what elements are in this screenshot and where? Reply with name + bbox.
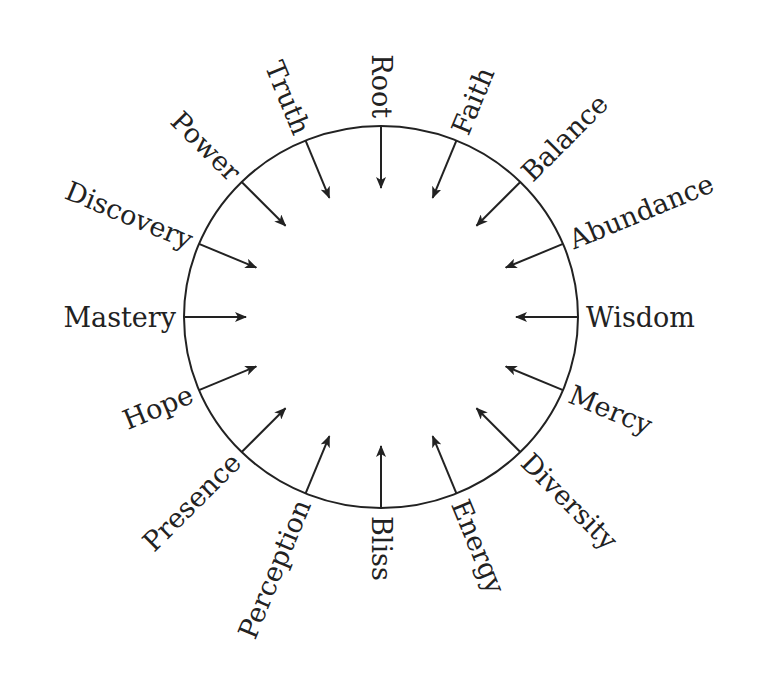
arrow-icon [476,408,520,452]
arrow-icon [306,436,330,493]
spoke-energy: Energy [433,436,512,598]
spoke-root: Root [366,54,397,188]
spoke-label: Perception [232,495,317,643]
arrow-icon [199,244,256,268]
spoke-label: Truth [259,56,317,139]
spoke-label: Wisdom [586,302,695,333]
spoke-label: Energy [445,495,512,599]
spoke-label: Diversity [515,447,624,556]
spoke-diversity: Diversity [476,408,624,556]
arrow-icon [433,141,457,198]
spoke-label: Faith [445,63,500,139]
arrow-icon [306,141,330,198]
spoke-label: Root [366,54,397,118]
spoke-label: Abundance [564,168,719,256]
spoke-balance: Balance [476,88,614,226]
spoke-perception: Perception [232,436,329,643]
spoke-label: Mastery [63,302,176,333]
spoke-mercy: Mercy [506,366,658,441]
arrow-icon [506,366,563,390]
wheel-diagram: RootFaithBalanceAbundanceWisdomMercyDive… [0,0,761,682]
spoke-wisdom: Wisdom [516,302,695,333]
spoke-label: Presence [136,447,247,558]
spoke-label: Balance [515,88,614,187]
spoke-discovery: Discovery [61,175,256,268]
spoke-power: Power [165,105,286,226]
spoke-bliss: Bliss [366,446,397,581]
spoke-mastery: Mastery [63,302,246,333]
arrow-icon [433,436,457,493]
spoke-hope: Hope [118,366,256,435]
arrow-icon [506,244,563,268]
spoke-label: Hope [118,379,197,436]
arrow-icon [242,408,286,452]
spoke-truth: Truth [259,56,329,197]
spoke-label: Bliss [366,516,397,581]
spoke-label: Discovery [61,175,198,256]
spoke-faith: Faith [433,63,501,198]
spoke-label: Mercy [564,379,657,441]
arrow-icon [242,182,286,226]
arrow-icon [199,366,256,390]
spoke-presence: Presence [136,408,285,557]
spoke-label: Power [165,105,247,187]
arrow-icon [476,182,520,226]
spokes-group: RootFaithBalanceAbundanceWisdomMercyDive… [61,54,718,643]
